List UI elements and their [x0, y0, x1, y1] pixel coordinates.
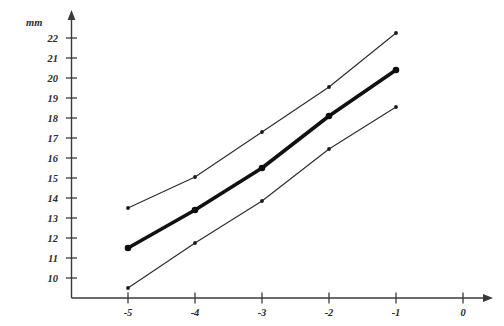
- data-point: [126, 286, 130, 290]
- series-path-middle-curve: [128, 70, 396, 248]
- data-point: [260, 130, 264, 134]
- line-chart: mm 10111213141516171819202122 -5-4-3-2-1…: [0, 0, 504, 326]
- y-tick-label: 17: [48, 133, 59, 144]
- x-axis-arrow-icon: [483, 294, 493, 302]
- x-tick-label: 0: [460, 307, 466, 318]
- series-upper-curve: [126, 31, 398, 210]
- data-point: [193, 241, 197, 245]
- series-middle-curve: [125, 67, 400, 252]
- data-point: [326, 113, 333, 120]
- series-layer: [125, 31, 400, 290]
- data-point: [259, 165, 266, 172]
- data-point: [394, 105, 398, 109]
- series-path-lower-curve: [128, 107, 396, 288]
- data-point: [394, 31, 398, 35]
- y-tick-label: 16: [48, 153, 59, 164]
- data-point: [327, 147, 331, 151]
- y-axis-ticks: 10111213141516171819202122: [47, 33, 78, 284]
- data-point: [393, 67, 400, 74]
- x-tick-label: -2: [325, 307, 334, 318]
- data-point: [260, 199, 264, 203]
- x-axis-ticks: -5-4-3-2-10: [124, 293, 467, 319]
- y-tick-label: 21: [47, 53, 59, 64]
- y-tick-label: 22: [47, 33, 59, 44]
- x-tick-label: -3: [258, 307, 267, 318]
- series-path-upper-curve: [128, 33, 396, 208]
- y-axis-unit-label: mm: [26, 17, 42, 28]
- data-point: [125, 245, 132, 252]
- data-point: [193, 175, 197, 179]
- y-tick-label: 20: [47, 73, 59, 84]
- data-point: [126, 206, 130, 210]
- chart-container: mm 10111213141516171819202122 -5-4-3-2-1…: [0, 0, 504, 326]
- y-tick-label: 19: [48, 93, 59, 104]
- y-tick-label: 11: [48, 253, 58, 264]
- x-tick-label: -4: [191, 307, 200, 318]
- y-tick-label: 15: [48, 173, 59, 184]
- y-tick-label: 18: [48, 113, 59, 124]
- y-tick-label: 13: [48, 213, 59, 224]
- data-point: [327, 85, 331, 89]
- y-axis-arrow-icon: [68, 10, 76, 20]
- x-tick-label: -1: [392, 307, 401, 318]
- x-tick-label: -5: [124, 307, 133, 318]
- y-tick-label: 12: [48, 233, 59, 244]
- data-point: [192, 207, 199, 214]
- y-tick-label: 10: [48, 273, 59, 284]
- y-tick-label: 14: [48, 193, 59, 204]
